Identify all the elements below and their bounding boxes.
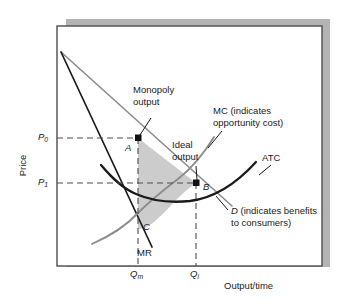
annotation-ideal-output: Ideal output — [172, 139, 218, 162]
y-tick-p0: P0 — [38, 131, 48, 144]
point-label-A: A — [125, 142, 131, 154]
y-tick-p1: P1 — [38, 176, 48, 189]
demand-label-text1: (indicates benefits — [238, 205, 317, 216]
ideal-output-line1: Ideal — [172, 139, 218, 151]
curve-label-demand: D (indicates benefits to consumers) — [231, 205, 343, 228]
point-label-C: C — [143, 221, 150, 233]
monopoly-output-line2: output — [133, 96, 197, 108]
annotation-monopoly-output: Monopoly output — [133, 84, 197, 107]
point-label-B: B — [203, 181, 209, 193]
demand-label-line1: D (indicates benefits — [231, 205, 343, 217]
point-marker-B — [193, 180, 200, 187]
mc-label-line1: MC (indicates — [213, 105, 319, 117]
ideal-output-line2: output — [172, 151, 218, 163]
monopoly-output-line1: Monopoly — [133, 84, 197, 96]
curve-label-mr: MR — [137, 247, 152, 259]
demand-label-symbol: D — [231, 205, 238, 216]
mc-label-line2: opportunity cost) — [213, 117, 319, 129]
y-axis-title: Price — [17, 136, 28, 196]
x-tick-qi: Qi — [190, 268, 199, 281]
point-marker-A — [135, 135, 142, 142]
curve-label-mc: MC (indicates opportunity cost) — [213, 105, 319, 128]
economics-figure: Price Output/time P0 P1 Qm Qi A B C Mono… — [0, 0, 348, 306]
x-tick-qm: Qm — [130, 268, 143, 281]
x-axis-title: Output/time — [224, 280, 273, 292]
demand-label-line2: to consumers) — [231, 217, 343, 229]
curve-label-atc: ATC — [262, 152, 280, 164]
